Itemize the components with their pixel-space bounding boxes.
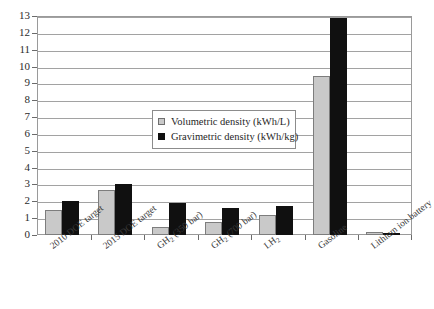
legend-swatch-volumetric <box>158 118 165 125</box>
legend-entry: Gravimetric density (kWh/kg) <box>158 129 290 144</box>
y-tick-label: 10 <box>19 61 30 72</box>
bar-group <box>305 16 359 235</box>
legend-entry: Volumetric density (kWh/L) <box>158 114 290 129</box>
y-tick-label: 6 <box>25 128 31 139</box>
y-axis: 012345678910111213 <box>0 0 37 235</box>
y-tick-label: 1 <box>25 212 31 223</box>
y-tick-label: 7 <box>25 111 31 122</box>
legend-label: Volumetric density (kWh/L) <box>171 116 290 128</box>
y-tick-label: 13 <box>19 10 30 21</box>
x-axis-labels: 2010 DOE target2015 DOE targetGH2 (350 b… <box>0 235 417 309</box>
bar-volumetric <box>45 210 62 235</box>
bar-volumetric <box>259 215 276 235</box>
chart-legend: Volumetric density (kWh/L)Gravimetric de… <box>152 110 296 149</box>
bar-group <box>358 16 412 235</box>
x-tick-label: LH2 <box>262 233 282 252</box>
bar-gravimetric <box>330 18 347 235</box>
bar-group <box>37 16 91 235</box>
y-tick-label: 8 <box>25 94 31 105</box>
bar-volumetric <box>313 76 330 235</box>
y-tick-label: 2 <box>25 195 31 206</box>
y-tick-label: 3 <box>25 178 31 189</box>
y-tick-label: 5 <box>25 145 31 156</box>
y-tick-label: 11 <box>19 44 30 55</box>
y-tick-label: 4 <box>25 162 31 173</box>
y-tick-label: 12 <box>19 27 30 38</box>
bar-gravimetric <box>276 206 293 235</box>
y-tick-label: 9 <box>25 77 31 88</box>
legend-label: Gravimetric density (kWh/kg) <box>171 131 298 143</box>
legend-swatch-gravimetric <box>158 133 165 140</box>
